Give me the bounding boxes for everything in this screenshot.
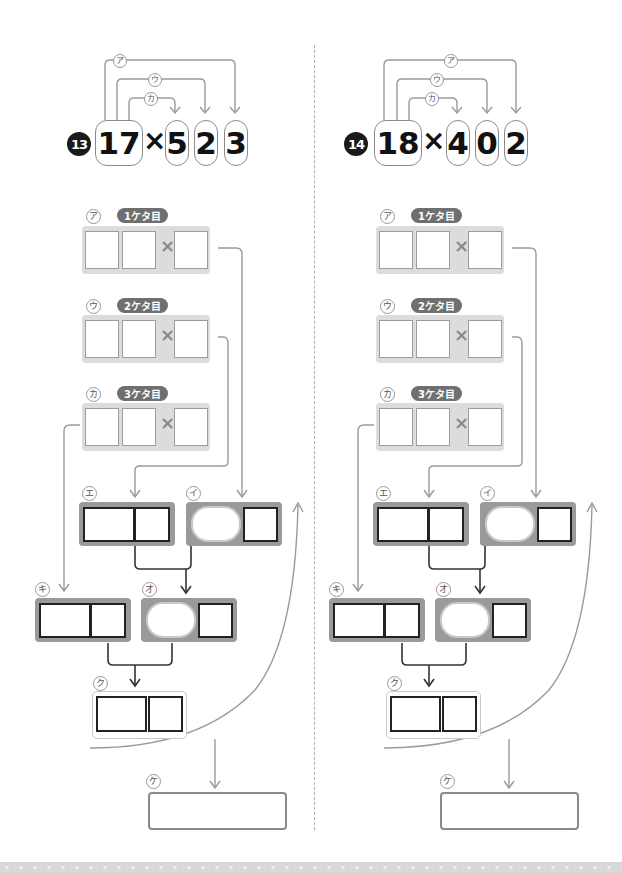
calc-o-cell[interactable] [492,603,527,638]
calc-kana-o: オ [436,582,451,597]
step-2-times: × [160,324,175,345]
step-kana-u: ウ [380,299,395,314]
multiplicand-box: 18 [374,120,422,166]
step-2-cell-tens[interactable] [85,320,119,358]
calc-ki-cell-right[interactable] [90,603,126,638]
calc-ki-tray [329,598,425,642]
calc-kana-e: エ [376,486,391,501]
multiplier-digit-hundreds: 5 [165,120,189,166]
step-3-cell-tens[interactable] [379,408,413,446]
problem-13: ア ウ カ 13 17 × 5 2 3 ア 1ケタ目 × ウ 2ケタ目 × カ … [0,0,311,835]
step-1-times: × [160,235,175,256]
multiplier-digit-tens: 2 [194,120,218,166]
step-2-tray: × [82,315,210,363]
multiplier-digit-hundreds: 4 [446,120,470,166]
calc-kana-ke: ケ [146,774,161,789]
calc-i-carry-oval[interactable] [191,506,241,542]
arrow-label-a: ア [113,54,127,68]
calc-e-cell-left[interactable] [83,507,135,542]
step-2-cell-ones[interactable] [122,320,156,358]
calc-e-tray [79,502,175,546]
step-3-tray: × [376,403,504,451]
calc-kana-e: エ [82,486,97,501]
times-sign: × [422,124,445,157]
step-label-2: 2ケタ目 [411,298,462,313]
times-sign: × [143,124,166,157]
step-label-1: 1ケタ目 [117,208,168,223]
step-kana-u: ウ [86,299,101,314]
step-1-cell-ones[interactable] [416,231,450,269]
final-answer-box[interactable] [440,792,579,830]
arrow-label-a: ア [444,54,458,68]
calc-e-cell-right[interactable] [134,507,170,542]
step-3-cell-ones[interactable] [122,408,156,446]
multiplier-digit-ones: 2 [504,120,528,166]
calc-kana-i: イ [186,486,201,501]
step-1-tray: × [82,226,210,274]
calc-ki-cell-left[interactable] [333,603,385,638]
step-1-cell-ones[interactable] [122,231,156,269]
step-3-cell-multiplier[interactable] [468,408,502,446]
calc-ki-cell-right[interactable] [384,603,420,638]
step-3-cell-ones[interactable] [416,408,450,446]
step-1-cell-multiplier[interactable] [174,231,208,269]
step-1-tray: × [376,226,504,274]
calc-i-cell[interactable] [537,507,572,542]
calc-ku-cell-right[interactable] [148,696,183,732]
calc-o-tray [435,598,531,642]
calc-o-cell[interactable] [198,603,233,638]
step-3-times: × [160,412,175,433]
calc-e-cell-right[interactable] [428,507,464,542]
calc-ki-tray [35,598,131,642]
arrow-label-ka: カ [144,92,158,106]
step-kana-a: ア [380,209,395,224]
footer-dot-pattern [0,865,622,870]
calc-i-tray [480,502,576,546]
step-3-cell-tens[interactable] [85,408,119,446]
calc-e-tray [373,502,469,546]
step-2-times: × [454,324,469,345]
calc-kana-ki: キ [35,582,50,597]
step-2-cell-multiplier[interactable] [468,320,502,358]
calc-ku-cell-right[interactable] [442,696,477,732]
arrow-label-ka: カ [425,92,439,106]
step-1-cell-tens[interactable] [379,231,413,269]
problem-number-badge: 13 [67,132,91,156]
step-label-2: 2ケタ目 [117,298,168,313]
arrow-label-u: ウ [148,73,162,87]
calc-kana-ku: ク [387,676,402,691]
calc-ki-cell-left[interactable] [39,603,91,638]
step-2-cell-multiplier[interactable] [174,320,208,358]
calc-o-carry-oval[interactable] [440,602,490,638]
step-kana-a: ア [86,209,101,224]
step-kana-ka: カ [86,387,101,402]
arrow-label-u: ウ [430,73,444,87]
final-answer-box[interactable] [148,792,287,830]
calc-kana-ki: キ [329,582,344,597]
step-2-cell-ones[interactable] [416,320,450,358]
step-3-cell-multiplier[interactable] [174,408,208,446]
step-1-cell-tens[interactable] [85,231,119,269]
calc-ku-tray [92,691,187,739]
step-2-cell-tens[interactable] [379,320,413,358]
calc-i-tray [186,502,282,546]
multiplier-digit-tens: 0 [475,120,499,166]
calc-i-carry-oval[interactable] [485,506,535,542]
calc-ku-cell-left[interactable] [96,696,147,732]
calc-kana-ku: ク [93,676,108,691]
step-label-1: 1ケタ目 [411,208,462,223]
step-1-cell-multiplier[interactable] [468,231,502,269]
calc-ku-cell-left[interactable] [390,696,441,732]
step-2-tray: × [376,315,504,363]
calc-kana-o: オ [142,582,157,597]
step-3-times: × [454,412,469,433]
calc-kana-ke: ケ [440,774,455,789]
calc-o-carry-oval[interactable] [146,602,196,638]
multiplier-digit-ones: 3 [224,120,248,166]
calc-i-cell[interactable] [243,507,278,542]
step-kana-ka: カ [380,387,395,402]
problem-14: ア ウ カ 14 18 × 4 0 2 ア 1ケタ目 × ウ 2ケタ目 × カ … [294,0,605,835]
calc-e-cell-left[interactable] [377,507,429,542]
problem-number-badge: 14 [344,132,368,156]
calc-ku-tray [386,691,481,739]
